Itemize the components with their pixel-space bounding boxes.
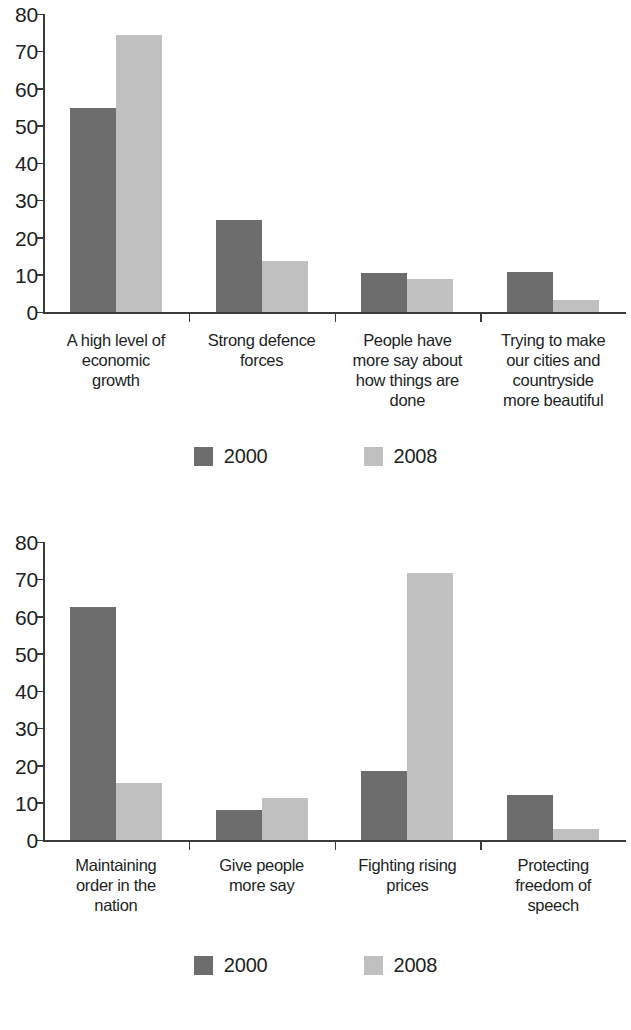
x-axis-tick [335, 313, 337, 322]
bar-2000-4 [507, 795, 553, 840]
legend-label-2008: 2008 [394, 955, 438, 975]
legend-label-2008: 2008 [394, 446, 438, 466]
bar-2008-3 [407, 279, 453, 312]
category-label-line: prices [336, 875, 480, 895]
legend-label-2000: 2000 [224, 446, 268, 466]
category-label-line: freedom of [481, 875, 625, 895]
x-axis-tick [189, 313, 191, 322]
y-axis-tick [37, 840, 44, 842]
category-label-3: People havemore say abouthow things ared… [335, 330, 481, 410]
legend-item-2000[interactable]: 2000 [194, 955, 268, 975]
category-label-line: more say about [336, 350, 480, 370]
category-label-2: Give peoplemore say [189, 855, 335, 915]
y-axis-tick [37, 579, 44, 581]
category-label-line: nation [44, 895, 188, 915]
y-axis-tick [37, 274, 44, 276]
x-axis-tick [480, 313, 482, 322]
y-axis-tick [37, 312, 44, 314]
bar-2008-4 [553, 829, 599, 840]
y-axis-tick-label: 60 [15, 607, 38, 628]
category-label-line: countryside [481, 370, 625, 390]
y-axis-tick [37, 802, 44, 804]
category-label-line: A high level of [44, 330, 188, 350]
category-label-line: People have [336, 330, 480, 350]
category-label-line: economic [44, 350, 188, 370]
category-label-4: Trying to makeour cities andcountrysidem… [480, 330, 626, 410]
y-axis-tick-label: 40 [15, 681, 38, 702]
y-axis-tick [37, 88, 44, 90]
y-axis-tick [37, 616, 44, 618]
bar-2000-4 [507, 272, 553, 312]
y-axis-tick-label: 50 [15, 116, 38, 137]
x-axis-tick [189, 841, 191, 850]
y-axis-tick-labels: 80706050403020100 [0, 500, 38, 840]
category-label-line: Trying to make [481, 330, 625, 350]
bar-2000-3 [361, 273, 407, 312]
chart-bottom-legend: 20002008 [0, 955, 631, 975]
category-label-2: Strong defenceforces [189, 330, 335, 410]
category-label-line: more say [190, 875, 334, 895]
y-axis-tick-label: 80 [15, 4, 38, 25]
y-axis-tick [37, 14, 44, 16]
y-axis-tick-label: 30 [15, 190, 38, 211]
category-label-line: Strong defence [190, 330, 334, 350]
chart-top-plot-area: 80706050403020100 [0, 0, 631, 330]
category-label-line: Fighting rising [336, 855, 480, 875]
y-axis-tick [37, 542, 44, 544]
bar-2008-4 [553, 300, 599, 312]
category-label-3: Fighting risingprices [335, 855, 481, 915]
category-label-line: done [336, 390, 480, 410]
legend-swatch-2000 [194, 447, 213, 466]
y-axis-tick [37, 51, 44, 53]
y-axis-tick-label: 10 [15, 265, 38, 286]
chart-bottom-container: 80706050403020100 Maintainingorder in th… [0, 500, 631, 1030]
y-axis-tick-label: 40 [15, 153, 38, 174]
bar-2000-2 [216, 220, 262, 312]
y-axis-tick-label: 20 [15, 228, 38, 249]
category-label-line: order in the [44, 875, 188, 895]
chart-top-container: 80706050403020100 A high level ofeconomi… [0, 0, 631, 500]
category-label-line: forces [190, 350, 334, 370]
bar-2008-1 [116, 783, 162, 840]
bar-2000-2 [216, 810, 262, 840]
bar-2008-2 [262, 798, 308, 840]
category-label-line: more beautiful [481, 390, 625, 410]
legend-swatch-2008 [364, 447, 383, 466]
category-label-line: Give people [190, 855, 334, 875]
legend-swatch-2000 [194, 956, 213, 975]
y-axis-tick [37, 125, 44, 127]
bar-2000-1 [70, 607, 116, 840]
bar-2000-3 [361, 771, 407, 840]
y-axis-tick-labels: 80706050403020100 [0, 0, 38, 312]
legend-swatch-2008 [364, 956, 383, 975]
y-axis-tick [37, 691, 44, 693]
category-label-line: how things are [336, 370, 480, 390]
bar-2008-1 [116, 35, 162, 312]
chart-top-category-labels: A high level ofeconomicgrowthStrong defe… [0, 330, 631, 410]
y-axis-tick-label: 20 [15, 756, 38, 777]
legend-label-2000: 2000 [224, 955, 268, 975]
y-axis-tick-label: 70 [15, 41, 38, 62]
category-label-1: Maintainingorder in thenation [43, 855, 189, 915]
bar-2008-3 [407, 573, 453, 840]
y-axis-tick-label: 10 [15, 793, 38, 814]
y-axis-tick-label: 50 [15, 644, 38, 665]
y-axis-tick [37, 237, 44, 239]
chart-top-legend: 20002008 [0, 446, 631, 466]
category-label-line: Maintaining [44, 855, 188, 875]
legend-item-2000[interactable]: 2000 [194, 446, 268, 466]
y-axis-tick-label: 70 [15, 569, 38, 590]
y-axis-tick-label: 60 [15, 79, 38, 100]
y-axis-tick [37, 163, 44, 165]
y-axis-tick [37, 653, 44, 655]
category-label-1: A high level ofeconomicgrowth [43, 330, 189, 410]
bar-2008-2 [262, 261, 308, 312]
x-axis-tick [480, 841, 482, 850]
category-label-line: speech [481, 895, 625, 915]
category-label-4: Protectingfreedom ofspeech [480, 855, 626, 915]
y-axis-tick-label: 30 [15, 718, 38, 739]
legend-item-2008[interactable]: 2008 [364, 955, 438, 975]
legend-item-2008[interactable]: 2008 [364, 446, 438, 466]
chart-bottom-plot-area: 80706050403020100 [0, 500, 631, 850]
chart-bottom-category-labels: Maintainingorder in thenationGive people… [0, 855, 631, 915]
